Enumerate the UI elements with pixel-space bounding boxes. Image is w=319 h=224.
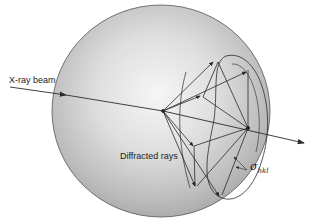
sigma-symbol: σ: [250, 160, 258, 173]
x-ray-beam-label: X-ray beam: [9, 75, 56, 85]
sigma-hkl-label: σhkl: [250, 160, 269, 175]
sigma-subscript: hkl: [258, 167, 269, 175]
diagram-canvas: [0, 0, 319, 224]
diffracted-rays-label: Diffracted rays: [120, 151, 178, 161]
